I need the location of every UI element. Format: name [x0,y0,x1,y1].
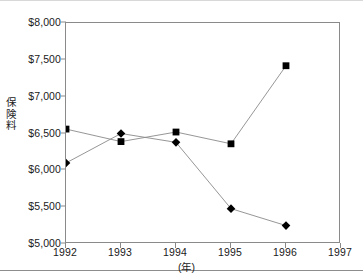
data-point-marker [66,159,70,168]
x-axis-tick-mark [230,243,231,248]
x-axis-tick-mark [120,243,121,248]
x-axis-tick-mark [340,243,341,248]
x-axis-tick-mark [65,243,66,248]
y-axis-tick-label: $5,500 [3,200,61,212]
x-axis-title-text: (年) [178,261,195,273]
chart-figure: 保険料 $5,000$5,500$6,000$6,500$7,000$7,500… [0,0,363,277]
chart-series-diamond [66,129,290,230]
x-axis-tick-mark [285,243,286,248]
data-point-marker [283,62,290,69]
chart-canvas [66,23,341,244]
y-axis-tick-label: $7,500 [3,53,61,65]
data-point-marker [228,140,235,147]
y-axis-tick-label: $6,000 [3,163,61,175]
x-axis-title: (年) [0,259,363,274]
y-axis-tick-label: $8,000 [3,16,61,28]
chart-series-square [66,62,289,147]
data-point-marker [117,129,126,138]
series-line [66,134,286,226]
data-point-marker [173,129,180,136]
top-divider [0,0,363,1]
y-axis-tick-label: $6,500 [3,127,61,139]
x-axis-tick-mark [175,243,176,248]
data-point-marker [118,138,125,145]
data-point-marker [282,221,291,230]
data-point-marker [66,126,69,133]
plot-area [65,22,340,243]
y-axis-tick-label: $7,000 [3,90,61,102]
